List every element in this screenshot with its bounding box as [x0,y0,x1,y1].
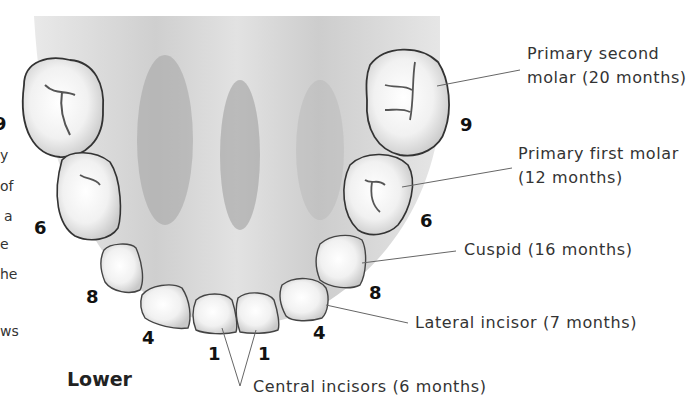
left-molar1-number: 6 [34,217,47,238]
right-cuspid [316,235,365,287]
right-molar1-number: 6 [420,210,433,231]
label-cuspid: Cuspid (16 months) [464,238,633,262]
label-second-molar-line2: molar (20 months) [527,66,686,90]
left-molar2-number: 9 [0,113,7,134]
jaw-label: Lower [67,368,132,390]
right-cuspid-number: 8 [369,282,382,303]
right-central-number: 1 [258,343,271,364]
left-cuspid [101,244,142,292]
right-molar2-number: 9 [460,114,473,135]
right-second-molar [366,50,449,156]
right-lateral-incisor [280,279,328,321]
right-central-incisor [236,293,279,333]
clipped-text-3: a [4,208,13,224]
label-second-molar-line1: Primary second [527,42,686,66]
label-first-molar: Primary first molar (12 months) [518,142,679,190]
clipped-text-1: y [0,147,8,163]
label-central-incisors: Central incisors (6 months) [253,375,487,399]
clipped-text-4: e [0,236,9,252]
left-lateral-number: 4 [142,327,155,348]
left-first-molar [57,153,120,240]
left-central-incisor [193,294,237,334]
left-cuspid-number: 8 [86,286,99,307]
left-lateral-incisor [141,285,190,329]
clipped-text-5: he [0,266,18,282]
label-lateral-incisor: Lateral incisor (7 months) [415,311,637,335]
clipped-text-2: of [0,178,14,194]
clipped-text-6: ws [0,323,19,339]
label-first-molar-line1: Primary first molar [518,142,679,166]
right-lateral-number: 4 [313,322,326,343]
left-second-molar [23,58,103,157]
left-central-number: 1 [208,343,221,364]
label-second-molar: Primary second molar (20 months) [527,42,686,90]
label-first-molar-line2: (12 months) [518,166,679,190]
